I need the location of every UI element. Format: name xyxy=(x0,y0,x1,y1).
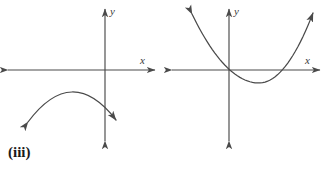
figure-iii: x y (iii) xyxy=(0,0,164,172)
x-axis-label-iv: x xyxy=(304,54,310,66)
x-axis-label-iii: x xyxy=(139,54,145,66)
y-axis-label-iii: y xyxy=(109,5,115,17)
parabola-curve-iii xyxy=(28,92,116,122)
figure-iv-graph: x y xyxy=(164,0,328,172)
parabola-curve-iv xyxy=(192,13,313,83)
y-axis-label-iv: y xyxy=(233,5,239,17)
figure-panel-container: x y (iii) x y (iv) xyxy=(0,0,328,172)
figure-iv: x y (iv) xyxy=(164,0,328,172)
figure-caption-iii: (iii) xyxy=(8,144,31,161)
